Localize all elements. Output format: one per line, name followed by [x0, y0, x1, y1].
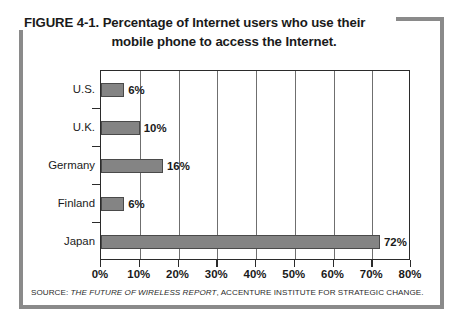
category-tick: [92, 146, 101, 147]
bar: 16%: [101, 159, 163, 173]
figure-title: FIGURE 4-1. Percentage of Internet users…: [24, 13, 390, 51]
bar-value-label: 10%: [144, 122, 167, 134]
bar-value-label: 6%: [128, 198, 144, 210]
bar-row: 6%: [101, 71, 409, 109]
figure-title-line-1: FIGURE 4-1. Percentage of Internet users…: [24, 13, 390, 32]
category-tick: [92, 222, 101, 223]
value-tick-label: 30%: [205, 268, 228, 280]
category-tick: [92, 108, 101, 109]
value-tick: [100, 260, 101, 267]
category-label: Germany: [48, 146, 95, 184]
bar-chart: U.S.U.K.GermanyFinlandJapan 6%10%16%6%72…: [29, 66, 424, 271]
bar-row: 72%: [101, 223, 409, 261]
bar: 6%: [101, 83, 124, 97]
bar: 72%: [101, 235, 380, 249]
source-note: SOURCE: THE FUTURE OF WIRELESS REPORT, A…: [31, 288, 424, 297]
frame-right-line: [440, 17, 444, 309]
frame-bottom-rule: [19, 305, 444, 309]
frame-left-line: [19, 30, 23, 309]
value-tick-label: 40%: [244, 268, 267, 280]
value-tick: [216, 260, 217, 267]
bar-value-label: 72%: [384, 236, 407, 248]
value-tick: [139, 260, 140, 267]
figure-title-line-2: mobile phone to access the Internet.: [24, 32, 390, 51]
figure-container: FIGURE 4-1. Percentage of Internet users…: [0, 0, 463, 328]
bar: 10%: [101, 121, 140, 135]
value-tick: [178, 260, 179, 267]
category-tick: [92, 184, 101, 185]
value-tick: [294, 260, 295, 267]
category-label: U.K.: [73, 108, 95, 146]
bar-value-label: 6%: [128, 84, 144, 96]
source-report-title: THE FUTURE OF WIRELESS REPORT: [71, 288, 217, 297]
source-prefix: SOURCE:: [31, 288, 71, 297]
value-tick-label: 80%: [399, 268, 422, 280]
value-tick: [333, 260, 334, 267]
value-tick: [410, 260, 411, 267]
value-tick: [371, 260, 372, 267]
value-tick-label: 10%: [127, 268, 150, 280]
bar: 6%: [101, 197, 124, 211]
value-tick-label: 0%: [92, 268, 108, 280]
bar-row: 10%: [101, 109, 409, 147]
frame-top-rule: [396, 17, 444, 21]
value-tick-label: 70%: [360, 268, 383, 280]
value-tick-label: 50%: [282, 268, 305, 280]
category-label: Finland: [58, 184, 95, 222]
plot-area: 6%10%16%6%72%: [100, 70, 410, 260]
bar-row: 16%: [101, 147, 409, 185]
value-tick: [255, 260, 256, 267]
category-label: U.S.: [73, 70, 95, 108]
bar-row: 6%: [101, 185, 409, 223]
value-tick-label: 20%: [166, 268, 189, 280]
category-label: Japan: [64, 222, 95, 260]
source-suffix: , ACCENTURE INSTITUTE FOR STRATEGIC CHAN…: [217, 288, 424, 297]
category-axis-labels: U.S.U.K.GermanyFinlandJapan: [29, 70, 95, 260]
value-tick-label: 60%: [321, 268, 344, 280]
bar-value-label: 16%: [167, 160, 190, 172]
bar-series: 6%10%16%6%72%: [101, 71, 409, 259]
